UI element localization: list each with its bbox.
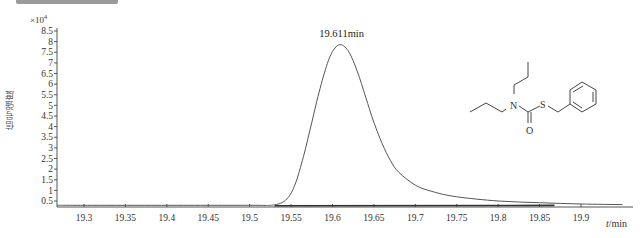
n-c-bond xyxy=(519,106,540,112)
x-tick-label: 19.65 xyxy=(363,213,385,223)
peak-label: 19.611min xyxy=(319,28,365,39)
y-tick-label: 4.5 xyxy=(41,111,53,121)
x-tick-label: 19.55 xyxy=(280,213,302,223)
y-tick-label: 2 xyxy=(48,164,53,174)
atom-o: O xyxy=(526,125,533,136)
x-tick-label: 19.7 xyxy=(407,213,424,223)
y-tick-label: 8 xyxy=(48,37,53,47)
x-tick-label: 19.4 xyxy=(159,213,176,223)
s-ch2-bond xyxy=(548,104,570,112)
x-tick-label: 19.6 xyxy=(324,213,341,223)
y-tick-label: 3.5 xyxy=(41,132,53,142)
propyl-chain-upper xyxy=(514,62,528,94)
y-tick-label: 5 xyxy=(48,101,53,111)
y-tick-label: 1.5 xyxy=(41,175,53,185)
y-tick-label: 6 xyxy=(48,79,53,89)
y-tick-label: 7 xyxy=(48,58,53,68)
x-tick-label: 19.85 xyxy=(529,213,551,223)
propyl-chain-lower xyxy=(470,103,506,112)
y-tick-label: 5.5 xyxy=(41,90,53,100)
molecule-structure: N S O xyxy=(462,52,622,152)
y-tick-label: 0.5 xyxy=(41,196,53,206)
y-tick-label: 8.5 xyxy=(41,26,53,36)
x-tick-label: 19.35 xyxy=(115,213,137,223)
y-tick-label: 3 xyxy=(48,143,53,153)
x-tick-label: 19.9 xyxy=(573,213,590,223)
y-tick-label: 4 xyxy=(48,122,53,132)
y-tick-label: 1 xyxy=(48,186,53,196)
x-axis-label-unit: /min xyxy=(609,218,627,229)
x-tick-label: 19.5 xyxy=(241,213,258,223)
y-tick-label: 7.5 xyxy=(41,47,53,57)
x-tick-label: 19.3 xyxy=(76,213,93,223)
x-tick-label: 19.8 xyxy=(490,213,507,223)
atom-s: S xyxy=(540,99,546,110)
atom-n: N xyxy=(510,100,517,111)
x-tick-label: 19.45 xyxy=(198,213,220,223)
x-tick-label: 19.75 xyxy=(446,213,468,223)
y-tick-label: 6.5 xyxy=(41,69,53,79)
x-axis-label: t/min xyxy=(606,218,627,229)
y-tick-label: 2.5 xyxy=(41,154,53,164)
